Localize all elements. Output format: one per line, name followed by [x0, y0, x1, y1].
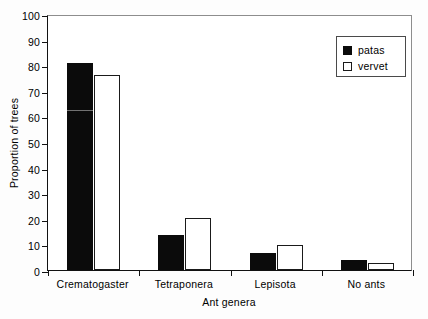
y-axis-tick-label: 100	[22, 11, 40, 22]
x-axis-category-label: Lepisota	[254, 278, 295, 290]
y-axis-tick-label: 0	[34, 267, 40, 278]
x-axis-category-label: Crematogaster	[57, 278, 129, 290]
legend-swatch-vervet-icon	[343, 62, 352, 71]
x-axis-tick	[139, 270, 140, 276]
x-axis-category-label: No ants	[348, 278, 386, 290]
scan-artifact-line	[67, 110, 93, 111]
bar-patas-crematogaster	[67, 63, 93, 270]
y-axis-tick-label: 30	[28, 190, 40, 201]
legend-item-patas: patas	[343, 42, 405, 58]
bar-patas-no-ants	[341, 260, 367, 270]
legend-label-patas: patas	[358, 45, 385, 56]
x-axis-tick	[322, 270, 323, 276]
y-axis-tick-label: 40	[28, 164, 40, 175]
legend: patas vervet	[336, 36, 406, 77]
bar-patas-lepisota	[250, 253, 276, 270]
bar-vervet-no-ants	[368, 263, 394, 270]
bar-vervet-tetraponera	[185, 218, 211, 270]
x-axis-tick	[48, 270, 49, 276]
y-axis-tick-label: 10	[28, 241, 40, 252]
bar-patas-tetraponera	[158, 235, 184, 270]
legend-label-vervet: vervet	[358, 61, 388, 72]
y-axis-tick-label: 60	[28, 113, 40, 124]
legend-item-vervet: vervet	[343, 58, 405, 74]
bar-vervet-lepisota	[277, 245, 303, 270]
bar-vervet-crematogaster	[94, 75, 120, 270]
y-axis-title: Proportion of trees	[8, 98, 20, 188]
y-axis-tick-label: 50	[28, 139, 40, 150]
x-axis-title: Ant genera	[202, 296, 255, 308]
y-axis-tick-label: 80	[28, 62, 40, 73]
x-axis-tick	[231, 270, 232, 276]
x-axis-tick	[413, 270, 414, 276]
x-axis-category-label: Tetraponera	[155, 278, 213, 290]
figure-bar-chart: Proportion of trees 01020304050607080901…	[0, 0, 428, 319]
y-axis-tick-label: 90	[28, 36, 40, 47]
y-axis-tick-label: 20	[28, 216, 40, 227]
y-axis-tick-label: 70	[28, 88, 40, 99]
legend-swatch-patas-icon	[343, 46, 352, 55]
